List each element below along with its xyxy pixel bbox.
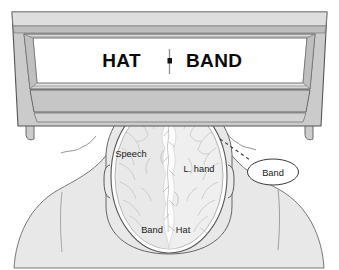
brain-label-hat: Hat (176, 225, 191, 235)
brain-label-speech: Speech (115, 149, 147, 159)
screen-right-word: BAND (186, 50, 243, 71)
callout-text: Band (262, 168, 284, 178)
split-brain-figure: HAT BAND Speech L. hand Band Hat Band (0, 0, 339, 270)
monitor-lower-bezel (30, 90, 310, 112)
brain-label-l-hand: L. hand (183, 164, 214, 174)
monitor-top-strip (12, 12, 327, 26)
screen-left-word: HAT (102, 50, 141, 71)
monitor-group: HAT BAND (12, 12, 327, 140)
figure-canvas: HAT BAND Speech L. hand Band Hat Band (0, 0, 339, 270)
brain-label-band: Band (141, 225, 163, 235)
monitor-base-lip (34, 113, 306, 122)
monitor-top-shadow-band (13, 26, 326, 33)
fixation-dot (168, 58, 173, 64)
